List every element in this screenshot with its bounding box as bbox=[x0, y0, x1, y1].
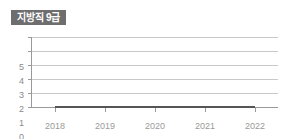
y-axis-ticks bbox=[28, 38, 32, 108]
x-tick-label-2019: 2019 bbox=[83, 122, 127, 131]
x-tick-label-2020: 2020 bbox=[133, 122, 177, 131]
chart-svg bbox=[0, 30, 292, 118]
x-tick-label-2021: 2021 bbox=[183, 122, 227, 131]
y-tick-label-2: 2 bbox=[8, 105, 24, 114]
y-tick-label-1: 1 bbox=[8, 119, 24, 128]
y-tick-label-3: 3 bbox=[8, 91, 24, 100]
y-tick-label-5: 5 bbox=[8, 63, 24, 72]
chart-plot-area bbox=[0, 30, 292, 118]
gridlines bbox=[32, 38, 279, 108]
chart-title-badge: 지방직 9급 bbox=[11, 10, 66, 25]
y-tick-label-4: 4 bbox=[8, 77, 24, 86]
x-tick-label-2022: 2022 bbox=[233, 122, 277, 131]
chart-widget: 지방직 9급 bbox=[0, 0, 292, 139]
x-tick-label-2018: 2018 bbox=[33, 122, 77, 131]
y-tick-label-0: 0 bbox=[8, 133, 24, 139]
